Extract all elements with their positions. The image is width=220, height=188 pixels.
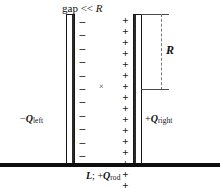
left-plate-negative-charges: − − − − − − − − − − − — [76, 17, 89, 162]
charge-sign-minus: − — [79, 30, 86, 41]
dimension-tick-bottom — [141, 89, 169, 90]
field-point-marker: × — [99, 83, 104, 91]
radius-label: R — [166, 44, 174, 56]
gap-condition-label: gap << R — [62, 3, 103, 14]
charge-sign-minus: − — [79, 84, 86, 95]
charged-rod — [0, 163, 220, 167]
charge-sign-plus: + — [122, 180, 128, 188]
charge-sign-minus: − — [79, 97, 86, 108]
gap-condition-variable: R — [96, 2, 103, 14]
left-charge-subscript: left — [33, 116, 43, 125]
right-plate-shading — [134, 15, 136, 164]
charge-sign-minus: − — [79, 57, 86, 68]
charge-sign-minus: − — [79, 44, 86, 55]
charge-sign-minus: − — [79, 17, 86, 28]
right-plate-charge-label: +Qright — [145, 114, 173, 125]
dimension-dashed-line — [161, 14, 162, 90]
gap-condition-text: gap << — [62, 2, 96, 14]
rod-charge-subscript: rod — [110, 173, 120, 182]
rod-label-separator: ; + — [92, 170, 103, 181]
left-plate-charge-label: −Qleft — [20, 114, 43, 125]
left-plate — [66, 14, 75, 165]
charge-sign-minus: − — [79, 124, 86, 135]
charge-sign-minus: − — [79, 71, 86, 82]
charge-sign-minus: − — [79, 151, 86, 162]
rod-label: L; +Qrod — [86, 171, 121, 182]
dimension-tick-top — [141, 14, 169, 15]
right-plate-positive-charges: + + + + + + + + + + + + + + + + — [119, 15, 132, 163]
charge-sign-minus: − — [79, 111, 86, 122]
right-charge-symbol: Q — [151, 113, 158, 124]
right-charge-subscript: right — [158, 116, 173, 125]
charge-sign-minus: − — [79, 138, 86, 149]
electrostatics-figure: gap << R − − − − − − − − − − − × + + + +… — [0, 0, 220, 188]
left-charge-symbol: Q — [26, 113, 33, 124]
left-plate-shading — [72, 15, 74, 164]
